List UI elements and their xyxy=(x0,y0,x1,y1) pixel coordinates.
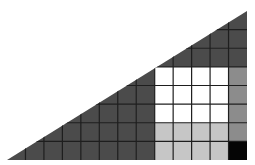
dark-cell xyxy=(136,48,155,67)
white-block xyxy=(155,86,174,105)
dark-cell xyxy=(81,141,100,160)
dark-cell xyxy=(118,141,137,160)
medium-gray-column xyxy=(229,104,248,123)
dark-cell xyxy=(7,67,26,86)
dark-cell xyxy=(192,30,211,49)
dark-cell xyxy=(7,141,26,160)
dark-cell xyxy=(99,48,118,67)
light-gray-block xyxy=(210,123,229,142)
dark-cell xyxy=(25,30,44,49)
dark-cell xyxy=(62,86,81,105)
white-block xyxy=(192,86,211,105)
dark-cell xyxy=(7,30,26,49)
dark-cell xyxy=(99,11,118,30)
white-block xyxy=(192,104,211,123)
white-block xyxy=(192,67,211,86)
dark-cell xyxy=(136,104,155,123)
dark-cell xyxy=(44,104,63,123)
dark-cell xyxy=(81,86,100,105)
dark-cell xyxy=(99,67,118,86)
dark-cell xyxy=(229,30,248,49)
triangle-grid-diagram xyxy=(0,0,255,165)
dark-cell xyxy=(136,86,155,105)
dark-cell xyxy=(118,86,137,105)
dark-cell xyxy=(155,48,174,67)
light-gray-block xyxy=(192,123,211,142)
white-block xyxy=(173,86,192,105)
dark-cell xyxy=(25,11,44,30)
dark-cell xyxy=(173,48,192,67)
dark-cell xyxy=(155,11,174,30)
dark-cell xyxy=(44,48,63,67)
dark-cell xyxy=(136,123,155,142)
dark-cell xyxy=(81,104,100,123)
dark-cell xyxy=(25,48,44,67)
dark-cell xyxy=(81,123,100,142)
dark-cell xyxy=(62,11,81,30)
dark-cell xyxy=(44,123,63,142)
dark-cell xyxy=(118,48,137,67)
dark-cell xyxy=(44,11,63,30)
white-block xyxy=(173,67,192,86)
light-gray-block xyxy=(173,141,192,160)
dark-cell xyxy=(62,48,81,67)
dark-cell xyxy=(136,11,155,30)
dark-cell xyxy=(81,11,100,30)
dark-cell xyxy=(62,104,81,123)
white-block xyxy=(155,67,174,86)
medium-gray-column xyxy=(229,67,248,86)
white-block xyxy=(173,104,192,123)
dark-cell xyxy=(229,11,248,30)
dark-cell xyxy=(44,30,63,49)
light-gray-block xyxy=(155,123,174,142)
dark-cell xyxy=(229,48,248,67)
light-gray-block xyxy=(192,141,211,160)
dark-cell xyxy=(99,86,118,105)
dark-cell xyxy=(81,30,100,49)
dark-cell xyxy=(7,123,26,142)
dark-cell xyxy=(210,11,229,30)
dark-cell xyxy=(44,67,63,86)
dark-cell xyxy=(62,30,81,49)
dark-cell xyxy=(118,30,137,49)
dark-cell xyxy=(99,30,118,49)
dark-cell xyxy=(25,67,44,86)
dark-cell xyxy=(25,141,44,160)
dark-cell xyxy=(7,48,26,67)
white-block xyxy=(210,104,229,123)
dark-cell xyxy=(99,123,118,142)
dark-cell xyxy=(118,104,137,123)
dark-cell xyxy=(192,48,211,67)
dark-cell xyxy=(62,123,81,142)
dark-cell xyxy=(7,11,26,30)
dark-cell xyxy=(44,141,63,160)
dark-cell xyxy=(136,67,155,86)
dark-cell xyxy=(192,11,211,30)
dark-cell xyxy=(173,11,192,30)
dark-cell xyxy=(62,67,81,86)
dark-cell xyxy=(25,86,44,105)
medium-gray-column xyxy=(229,123,248,142)
black-cell xyxy=(229,141,248,160)
light-gray-block xyxy=(210,141,229,160)
dark-cell xyxy=(155,30,174,49)
light-gray-block xyxy=(155,141,174,160)
dark-cell xyxy=(7,104,26,123)
dark-cell xyxy=(99,104,118,123)
dark-cell xyxy=(136,30,155,49)
dark-cell xyxy=(62,141,81,160)
dark-cell xyxy=(118,67,137,86)
white-block xyxy=(210,86,229,105)
dark-cell xyxy=(44,86,63,105)
white-block xyxy=(155,104,174,123)
medium-gray-column xyxy=(229,86,248,105)
dark-cell xyxy=(118,123,137,142)
dark-cell xyxy=(7,86,26,105)
dark-cell xyxy=(25,123,44,142)
dark-cell xyxy=(210,30,229,49)
dark-cell xyxy=(118,11,137,30)
white-block xyxy=(210,67,229,86)
dark-cell xyxy=(25,104,44,123)
dark-cell xyxy=(173,30,192,49)
dark-cell xyxy=(136,141,155,160)
